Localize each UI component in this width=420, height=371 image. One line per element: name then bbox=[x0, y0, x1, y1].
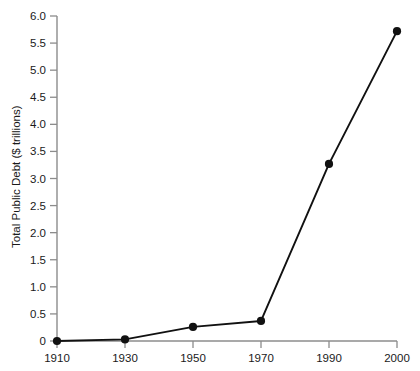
series-data-point bbox=[53, 337, 61, 345]
series-data-point bbox=[393, 27, 401, 35]
y-tick-label: 5.5 bbox=[30, 37, 46, 49]
series-data-point bbox=[189, 323, 197, 331]
y-tick-label: 2.5 bbox=[30, 200, 46, 212]
chart-canvas: Total Public Debt ($ trillions) 00.51.01… bbox=[0, 0, 420, 371]
y-tick-label: 4.0 bbox=[30, 118, 46, 130]
x-tick-label: 1970 bbox=[248, 352, 274, 364]
y-tick-label: 3.5 bbox=[30, 145, 46, 157]
x-tick-label: 1950 bbox=[180, 352, 206, 364]
x-tick-label: 1990 bbox=[316, 352, 342, 364]
y-tick-label: 1.0 bbox=[30, 281, 46, 293]
x-tick-label: 1910 bbox=[44, 352, 70, 364]
y-axis-title: Total Public Debt ($ trillions) bbox=[10, 105, 22, 248]
x-tick-label: 1930 bbox=[112, 352, 138, 364]
y-tick-label: 1.5 bbox=[30, 254, 46, 266]
y-tick-label: 0 bbox=[40, 335, 46, 347]
y-tick-label: 5.0 bbox=[30, 64, 46, 76]
line-chart: Total Public Debt ($ trillions) 00.51.01… bbox=[0, 0, 420, 371]
y-tick-label: 3.0 bbox=[30, 173, 46, 185]
chart-background bbox=[0, 0, 420, 371]
y-tick-label: 0.5 bbox=[30, 308, 46, 320]
series-data-point bbox=[121, 335, 129, 343]
y-tick-label: 6.0 bbox=[30, 10, 46, 22]
series-data-point bbox=[325, 160, 333, 168]
x-tick-label: 2000 bbox=[384, 352, 410, 364]
y-tick-label: 4.5 bbox=[30, 91, 46, 103]
y-tick-label: 2.0 bbox=[30, 227, 46, 239]
series-data-point bbox=[257, 317, 265, 325]
